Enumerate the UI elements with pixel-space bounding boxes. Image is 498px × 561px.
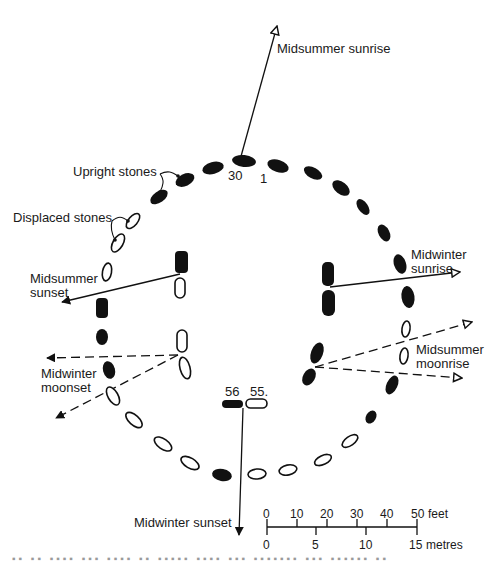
upright-stone: [175, 251, 188, 273]
stone-number-1: 1: [260, 171, 267, 186]
label-midsummer-sunrise: Midsummer sunrise: [277, 41, 390, 56]
upright-stone: [101, 360, 117, 380]
upright-stone: [96, 329, 108, 345]
label-displaced-stones: Displaced stones: [13, 210, 112, 225]
upright-stone: [211, 467, 233, 482]
upright-stone: [391, 253, 409, 276]
scale-bar: 0 10 20 30 40 50 feet 0 5 10 15 metres: [263, 507, 463, 552]
displaced-stone: [278, 463, 298, 477]
scale-feet-20: 20: [320, 507, 334, 521]
legend-leaders: [111, 172, 178, 240]
upright-stone: [308, 341, 327, 366]
upright-stone: [322, 262, 334, 286]
scale-feet-50: 50: [411, 507, 425, 521]
upright-stone: [96, 298, 108, 318]
upright-stone: [299, 366, 318, 388]
displaced-stone: [101, 262, 113, 281]
upright-stone: [173, 170, 196, 189]
upright-stone: [401, 321, 411, 338]
upright-stone: [322, 290, 335, 316]
upright-stone: [302, 163, 325, 182]
displaced-stone: [123, 410, 145, 431]
displaced-stone: [152, 434, 174, 454]
midwinter-moonset-line-a: [47, 355, 178, 358]
label-midwinter-moonset-2: moonset: [41, 380, 91, 395]
scale-feet-30: 30: [350, 507, 364, 521]
label-midsummer-moonrise-1: Midsummer: [416, 342, 485, 357]
midwinter-sunset-line: [239, 408, 243, 535]
upright-stone: [201, 159, 225, 176]
upright-stone: [400, 285, 416, 309]
displaced-stone: [124, 211, 142, 231]
displaced-stone: [248, 468, 267, 480]
label-midsummer-sunset-1: Midsummer: [30, 271, 99, 286]
upright-stone: [354, 197, 373, 217]
label-midwinter-sunrise-2: sunrise: [411, 261, 453, 276]
displaced-leader: [112, 217, 128, 221]
displaced-stone: [109, 232, 128, 254]
scale-feet-unit: feet: [428, 507, 449, 521]
scale-metre-5: 5: [312, 538, 319, 552]
label-midwinter-sunset: Midwinter sunset: [134, 515, 232, 530]
displaced-stone: [177, 330, 187, 352]
scale-feet-40: 40: [380, 507, 394, 521]
displaced-stone-55: [246, 399, 267, 408]
displaced-stone: [104, 385, 123, 407]
upright-stone: [231, 154, 256, 168]
scale-metre-10: 10: [359, 538, 373, 552]
displaced-stone: [340, 432, 360, 450]
stone-number-55: 55.: [250, 384, 268, 399]
scale-metre-15: 15: [409, 538, 423, 552]
scale-feet-0: 0: [263, 507, 270, 521]
displaced-stone: [175, 278, 185, 298]
stone-ring: [96, 154, 416, 483]
upright-stone: [375, 222, 393, 243]
label-upright-stones: Upright stones: [73, 164, 157, 179]
cut-off-caption: ▪▪ ▪▪ ▪▪▪▪ ▪▪▪ ▪▪▪▪ ▪▪ ▪▪▪▪▪ ▪▪▪▪ ▪▪▪ ▪▪…: [12, 553, 492, 561]
displaced-stone: [179, 454, 201, 473]
scale-metre-0: 0: [263, 538, 270, 552]
label-midsummer-sunset-2: sunset: [30, 285, 69, 300]
upright-stone: [363, 408, 379, 425]
upright-stone: [148, 187, 171, 207]
upright-stone: [329, 177, 352, 199]
label-midsummer-moonrise-2: moonrise: [416, 356, 469, 371]
upright-leader: [160, 172, 178, 176]
alignment-lines: [47, 26, 472, 535]
displaced-stone: [177, 356, 192, 380]
upright-stone: [266, 157, 291, 175]
upright-stone: [383, 374, 401, 397]
scale-metre-unit: metres: [426, 538, 463, 552]
stone-circle-diagram: Midsummer sunrise Upright stones Displac…: [0, 0, 498, 561]
stone-number-56: 56: [225, 384, 239, 399]
scale-feet-10: 10: [290, 507, 304, 521]
displaced-stone: [313, 452, 333, 468]
upright-leader-2: [160, 174, 163, 192]
midsummer-sunrise-line: [240, 26, 277, 160]
labels: Midsummer sunrise Upright stones Displac…: [13, 41, 485, 530]
label-midwinter-sunrise-1: Midwinter: [411, 247, 467, 262]
upright-stone: [399, 348, 409, 365]
label-midwinter-moonset-1: Midwinter: [41, 366, 97, 381]
stone-number-30: 30: [228, 168, 242, 183]
upright-stone-56: [222, 400, 243, 408]
